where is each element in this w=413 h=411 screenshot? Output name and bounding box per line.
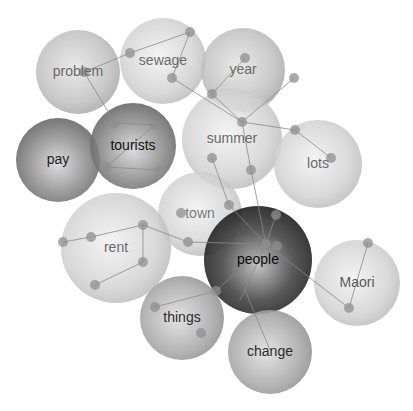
- node-dot: [289, 73, 299, 83]
- node-dot: [58, 237, 68, 247]
- node-dot: [183, 237, 193, 247]
- bubble-label-lots: lots: [307, 155, 329, 171]
- node-dot: [86, 232, 96, 242]
- node-dot: [125, 48, 135, 58]
- bubble-label-problem: problem: [53, 63, 104, 79]
- node-dot: [207, 153, 217, 163]
- node-dot: [237, 117, 247, 127]
- bubble-label-things: things: [163, 309, 200, 325]
- node-dot: [155, 165, 165, 175]
- node-dot: [138, 257, 148, 267]
- bubble-label-people: people: [237, 251, 279, 267]
- node-dot: [207, 89, 217, 99]
- node-dot: [224, 200, 234, 210]
- bubble-label-town: town: [185, 205, 215, 221]
- node-dot: [90, 280, 100, 290]
- node-dot: [211, 286, 221, 296]
- bubble-label-rent: rent: [104, 239, 128, 255]
- node-dot: [246, 165, 256, 175]
- node-dot: [167, 73, 177, 83]
- node-dot: [185, 27, 195, 37]
- node-dot: [196, 328, 206, 338]
- bubble-diagram: problemsewageyearpaytouristssummerlotsto…: [0, 0, 413, 411]
- node-dot: [363, 238, 373, 248]
- node-dot: [150, 120, 160, 130]
- node-dot: [261, 239, 271, 249]
- bubble-label-year: year: [229, 61, 257, 77]
- bubble-label-sewage: sewage: [139, 52, 187, 68]
- node-dot: [110, 118, 120, 128]
- bubble-label-maori: Maori: [339, 274, 374, 290]
- node-dot: [344, 303, 354, 313]
- bubble-label-summer: summer: [207, 130, 258, 146]
- node-dot: [271, 210, 281, 220]
- node-dot: [101, 162, 111, 172]
- bubble-label-pay: pay: [47, 151, 70, 167]
- node-dot: [138, 220, 148, 230]
- node-dot: [272, 241, 282, 251]
- bubble-label-tourists: tourists: [110, 137, 155, 153]
- node-dot: [290, 125, 300, 135]
- node-dot: [150, 302, 160, 312]
- bubble-label-change: change: [247, 343, 293, 359]
